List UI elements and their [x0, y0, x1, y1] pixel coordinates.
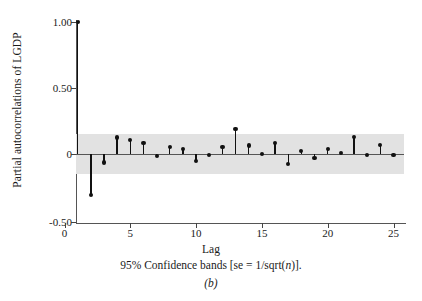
- pacf-point: [352, 135, 356, 139]
- panel-letter: (b): [0, 277, 422, 289]
- x-axis-label: Lag: [0, 243, 422, 255]
- x-tick-label-25: 25: [374, 228, 414, 239]
- zero-line: [76, 154, 404, 155]
- pacf-point: [115, 135, 119, 139]
- pacf-stem: [77, 22, 78, 154]
- y-axis-label: Partial autocorrelations of LGDP: [6, 5, 28, 215]
- pacf-stem: [90, 154, 91, 195]
- x-tick-label-0: 0: [45, 228, 85, 239]
- pacf-stem: [116, 138, 117, 155]
- pacf-point: [365, 153, 369, 157]
- caption-prefix: 95% Confidence bands [se = 1/sqrt(: [120, 259, 285, 271]
- y-axis-tick-labels: 1.00 0.50 0 -0.50: [28, 0, 72, 301]
- pacf-point: [102, 160, 106, 164]
- pacf-point: [155, 154, 159, 158]
- caption-suffix: )].: [291, 259, 302, 271]
- y-tick-label-0: 0: [34, 149, 72, 160]
- pacf-stem: [235, 129, 236, 154]
- pacf-point: [141, 141, 145, 145]
- pacf-point: [391, 153, 395, 157]
- pacf-stem: [353, 137, 354, 154]
- pacf-point: [260, 152, 264, 156]
- x-tick-label-15: 15: [242, 228, 282, 239]
- pacf-point: [181, 147, 185, 151]
- y-tick-label-0.50: 0.50: [34, 83, 72, 94]
- pacf-point: [89, 193, 93, 197]
- pacf-point: [76, 20, 80, 24]
- x-tick-label-20: 20: [308, 228, 348, 239]
- pacf-point: [273, 141, 277, 145]
- y-tick-label-1.00: 1.00: [34, 17, 72, 28]
- pacf-stem: [130, 140, 131, 154]
- figure-caption: 95% Confidence bands [se = 1/sqrt(n)].: [0, 259, 422, 271]
- x-tick-label-5: 5: [110, 228, 150, 239]
- x-axis-line: [76, 223, 406, 224]
- pacf-point: [233, 127, 237, 131]
- pacf-point: [247, 143, 251, 147]
- figure-panel-b: Partial autocorrelations of LGDP 1.00 0.…: [0, 0, 422, 301]
- pacf-point: [312, 156, 316, 160]
- x-tick-label-10: 10: [176, 228, 216, 239]
- pacf-point: [194, 159, 198, 163]
